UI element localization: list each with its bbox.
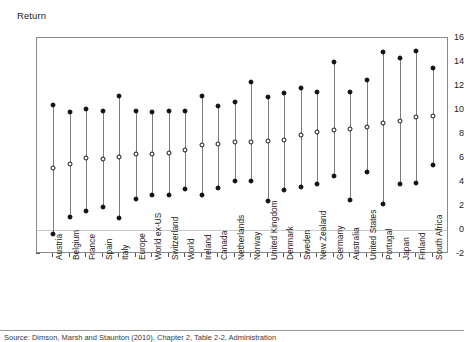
data-point-low: [414, 181, 419, 186]
x-tick-label: South Africa: [435, 215, 444, 260]
x-tick-mark: [201, 253, 202, 257]
x-tick-label: New Zealand: [319, 211, 328, 260]
data-point-low: [84, 208, 89, 213]
data-point-low: [117, 216, 122, 221]
range-line: [383, 52, 384, 203]
x-tick-mark: [399, 253, 400, 257]
range-line: [251, 82, 252, 180]
data-point-low: [67, 214, 72, 219]
x-tick-label: United States: [369, 210, 378, 260]
data-point-high: [216, 104, 221, 109]
data-point-high: [150, 110, 155, 115]
data-point-low: [133, 196, 138, 201]
data-point-low: [298, 184, 303, 189]
data-point-high: [84, 106, 89, 111]
x-tick-mark: [300, 253, 301, 257]
x-tick-mark: [102, 253, 103, 257]
data-point-mid: [100, 157, 105, 162]
x-tick-label: Norway: [253, 232, 262, 260]
caption-divider: [0, 330, 464, 331]
data-point-low: [150, 193, 155, 198]
data-point-low: [232, 178, 237, 183]
x-tick-mark: [118, 253, 119, 257]
x-tick-label: Belgium: [72, 230, 81, 260]
data-point-mid: [265, 139, 270, 144]
data-point-mid: [150, 152, 155, 157]
data-point-high: [117, 93, 122, 98]
x-tick-label: Japan: [402, 237, 411, 260]
data-point-high: [298, 86, 303, 91]
x-tick-label: Switzerland: [171, 217, 180, 260]
x-tick-label: Spain: [105, 239, 114, 260]
data-point-mid: [67, 162, 72, 167]
range-line: [218, 106, 219, 188]
data-point-low: [315, 182, 320, 187]
data-point-high: [315, 90, 320, 95]
x-tick-label: World: [187, 238, 196, 260]
x-tick-mark: [151, 253, 152, 257]
y-axis-title: Return: [17, 10, 46, 21]
x-tick-label: France: [88, 234, 97, 260]
data-point-low: [166, 193, 171, 198]
data-point-low: [282, 188, 287, 193]
data-point-mid: [381, 121, 386, 126]
chart-figure: Return -20246810121416 AustriaBelgiumFra…: [0, 0, 464, 342]
data-point-high: [348, 90, 353, 95]
data-point-high: [249, 80, 254, 85]
data-point-high: [397, 56, 402, 61]
x-tick-label: Sweden: [303, 230, 312, 260]
data-point-mid: [315, 129, 320, 134]
x-tick-label: Germany: [336, 226, 345, 260]
data-point-mid: [117, 154, 122, 159]
data-point-mid: [166, 151, 171, 156]
data-point-high: [430, 66, 435, 71]
data-point-low: [430, 163, 435, 168]
data-point-low: [331, 174, 336, 179]
data-point-mid: [414, 115, 419, 120]
x-tick-label: Denmark: [286, 226, 295, 260]
x-tick-label: Ireland: [204, 234, 213, 260]
data-point-mid: [216, 141, 221, 146]
data-point-low: [249, 178, 254, 183]
x-tick-mark: [135, 253, 136, 257]
data-point-mid: [348, 127, 353, 132]
data-point-high: [414, 49, 419, 54]
data-point-mid: [364, 124, 369, 129]
range-line: [268, 97, 269, 201]
x-tick-mark: [184, 253, 185, 257]
data-point-high: [381, 50, 386, 55]
x-tick-mark: [415, 253, 416, 257]
range-line: [350, 92, 351, 200]
data-point-low: [100, 205, 105, 210]
data-point-mid: [133, 152, 138, 157]
data-point-high: [67, 110, 72, 115]
x-tick-label: Portugal: [385, 229, 394, 260]
data-point-low: [216, 186, 221, 191]
x-tick-label: Italy: [121, 244, 130, 260]
x-tick-label: Finland: [418, 232, 427, 260]
data-point-mid: [51, 165, 56, 170]
x-tick-label: United Kingdom: [270, 200, 279, 260]
data-point-low: [348, 198, 353, 203]
data-point-mid: [249, 140, 254, 145]
data-point-high: [133, 109, 138, 114]
data-point-high: [166, 109, 171, 114]
data-point-mid: [331, 128, 336, 133]
x-tick-mark: [250, 253, 251, 257]
x-tick-mark: [382, 253, 383, 257]
data-point-high: [51, 103, 56, 108]
data-point-mid: [84, 156, 89, 161]
figure-caption: Source: Dimson, Marsh and Staunton (2010…: [4, 333, 460, 342]
x-tick-label: Canada: [220, 231, 229, 260]
x-tick-mark: [432, 253, 433, 257]
data-point-low: [381, 201, 386, 206]
x-tick-label: Netherlands: [237, 215, 246, 260]
x-tick-label: Europe: [138, 233, 147, 260]
x-tick-mark: [316, 253, 317, 257]
data-point-high: [331, 60, 336, 65]
x-tick-mark: [267, 253, 268, 257]
data-point-mid: [430, 114, 435, 119]
data-point-low: [397, 182, 402, 187]
data-point-high: [282, 91, 287, 96]
data-point-mid: [298, 133, 303, 138]
